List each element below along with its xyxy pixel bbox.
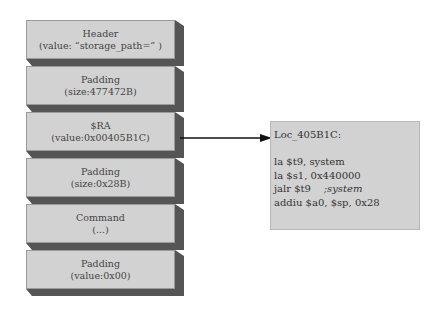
block-value: (size:0x28B): [71, 178, 131, 190]
stack-block-padding: Padding (size:477472B): [26, 66, 175, 105]
block-shadow: [26, 289, 184, 296]
code-line: addiu $a0, $sp, 0x28: [274, 196, 417, 210]
code-line: la $t9, system: [274, 155, 417, 169]
block-shadow: [26, 105, 184, 112]
code-line: la $s1, 0x440000: [274, 169, 417, 183]
code-box: Loc_405B1C: la $t9, system la $s1, 0x440…: [270, 121, 420, 230]
block-shadow: [175, 20, 184, 59]
stack-block-header: Header (value: “storage_path=” ): [26, 20, 175, 59]
block-shadow: [26, 197, 184, 204]
block-value: (value:0x00): [71, 270, 131, 282]
code-comment: ;system: [324, 183, 363, 194]
stack-block-padding: Padding (size:0x28B): [26, 158, 175, 197]
block-title: Padding: [81, 258, 120, 270]
block-shadow: [175, 66, 184, 105]
block-title: Header: [83, 28, 119, 40]
code-label: Loc_405B1C:: [274, 128, 417, 142]
block-value: (value:0x00405B1C): [51, 132, 149, 144]
block-shadow: [175, 112, 184, 151]
block-value: (size:477472B): [64, 86, 136, 98]
code-line: jalr $t9 ;system: [274, 182, 417, 196]
block-shadow: [175, 250, 184, 289]
arrow-icon: [180, 134, 272, 142]
stack-block-command: Command (...): [26, 204, 175, 243]
block-title: $RA: [90, 120, 110, 132]
stack-block-ra: $RA (value:0x00405B1C): [26, 112, 175, 151]
stack-block-padding: Padding (value:0x00): [26, 250, 175, 289]
block-shadow: [26, 59, 184, 66]
block-shadow: [26, 151, 184, 158]
block-value: (...): [92, 224, 108, 236]
block-title: Padding: [81, 74, 120, 86]
block-shadow: [175, 158, 184, 197]
block-shadow: [175, 204, 184, 243]
block-title: Command: [76, 212, 125, 224]
block-shadow: [26, 243, 184, 250]
block-title: Padding: [81, 166, 120, 178]
block-value: (value: “storage_path=” ): [39, 40, 162, 52]
